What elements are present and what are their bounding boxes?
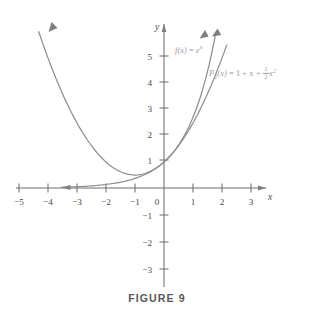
y-tick-label: −3 (142, 265, 152, 275)
graph-plot: −5 −4 −3 −2 −1 1 2 3 0 5 4 3 2 1 −1 −2 −… (0, 0, 314, 320)
taylor-left-arrowhead (49, 22, 58, 32)
x-tick-label: 3 (249, 197, 254, 207)
x-tick-label: 2 (220, 197, 225, 207)
exponential-right-arrowhead (200, 30, 209, 38)
y-tick-label: 1 (147, 156, 152, 166)
y-tick-label: 2 (147, 130, 152, 140)
origin-label: 0 (155, 197, 160, 207)
x-tick-label: −4 (43, 197, 53, 207)
x-tick-label: −2 (101, 197, 111, 207)
y-tick-label: −1 (142, 211, 152, 221)
label-exponential-exponent: x (200, 44, 203, 50)
figure-container: −5 −4 −3 −2 −1 1 2 3 0 5 4 3 2 1 −1 −2 −… (0, 0, 314, 320)
x-tick-label: −1 (130, 197, 140, 207)
label-exponential-function: f(x) = ex (175, 44, 203, 55)
exponential-path (61, 32, 216, 187)
x-axis-name: x (267, 191, 273, 202)
label-taylor-fraction: 12 (263, 66, 268, 80)
label-exponential-lhs: f(x) (175, 46, 187, 55)
label-taylor-frac-numerator: 1 (263, 66, 268, 73)
y-tick-label: 3 (147, 104, 152, 114)
x-tick-label: −5 (14, 197, 24, 207)
y-tick-label: −2 (142, 238, 152, 248)
label-taylor-arg: (x) (217, 69, 227, 78)
y-tick-label: 4 (147, 78, 152, 88)
label-exponential-eq: = (187, 46, 196, 55)
x-tick-label: −3 (72, 197, 82, 207)
label-taylor-eq: = 1 + x + (227, 69, 263, 78)
exponential-left-arrowhead (62, 185, 70, 190)
x-axis (16, 186, 266, 191)
taylor-right-arrowhead (212, 29, 221, 37)
x-axis-arrowhead (258, 186, 266, 191)
y-axis (162, 24, 167, 287)
label-taylor-tail-exponent: 2 (273, 68, 276, 74)
x-tick-labels: −5 −4 −3 −2 −1 1 2 3 0 (14, 197, 254, 207)
label-taylor-frac-denominator: 2 (263, 73, 268, 81)
y-axis-name: y (154, 21, 160, 32)
y-axis-arrowhead (162, 24, 167, 32)
figure-caption: FIGURE 9 (0, 292, 314, 304)
y-tick-labels: 5 4 3 2 1 −1 −2 −3 (142, 52, 152, 275)
x-tick-label: 1 (191, 197, 196, 207)
label-taylor-polynomial: P2(x) = 1 + x + 12x2 (209, 66, 276, 80)
y-tick-label: 5 (147, 52, 152, 62)
